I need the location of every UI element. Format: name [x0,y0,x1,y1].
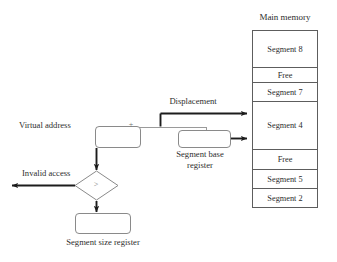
memory-cell-label: Free [278,155,293,164]
memory-cell-segment-5: Segment 5 [252,170,318,189]
memory-cell-label: Segment 7 [267,88,302,97]
segment-base-register-label-line2: register [187,161,213,170]
segment-base-register-box [178,130,231,148]
displacement-label: Displacement [169,97,216,106]
memory-cell-label: Segment 8 [267,45,302,54]
main-memory-title: Main memory [259,13,310,23]
memory-cell-label: Segment 5 [267,175,302,184]
segment-base-register-label-line1: Segment base [176,150,224,159]
virtual-address-box [95,126,141,148]
segment-size-register-label: Segment size register [66,238,140,247]
memory-cell-segment-8: Segment 8 [252,30,318,68]
memory-cell-free-1: Free [252,68,318,83]
memory-cell-label: Segment 4 [267,121,302,130]
memory-cell-segment-4: Segment 4 [252,102,318,150]
memory-cell-segment-7: Segment 7 [252,83,318,102]
segment-size-register-box [75,213,131,234]
compare-operator-symbol: > [94,181,99,190]
adder-plus-symbol: + [129,121,134,130]
memory-cell-label: Free [278,71,293,80]
memory-cell-free-2: Free [252,150,318,170]
memory-cell-label: Segment 2 [267,194,302,203]
diagram-canvas: Main memory Segment 8 Free Segment 7 Seg… [0,0,337,262]
virtual-address-label: Virtual address [19,121,71,130]
memory-cell-segment-2: Segment 2 [252,189,318,208]
invalid-access-label: Invalid access [22,169,70,178]
